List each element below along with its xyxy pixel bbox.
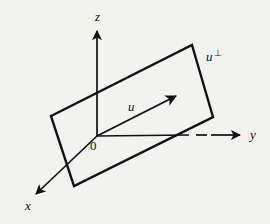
vector-u-label: u (128, 100, 135, 113)
y-axis-line-inner (97, 135, 189, 136)
x-axis-label: x (25, 199, 31, 212)
plane-u-perp (51, 45, 213, 186)
y-axis-label: y (250, 128, 256, 141)
z-axis-label: z (95, 10, 100, 23)
plane-u-perp-base: u (206, 49, 213, 64)
x-axis-line (36, 136, 97, 194)
figure-canvas: z y x u u⊥ 0 (0, 0, 270, 224)
diagram-svg (0, 0, 270, 224)
plane-u-perp-label: u⊥ (206, 49, 222, 63)
vector-u (97, 96, 176, 136)
perpendicular-icon: ⊥ (214, 48, 222, 58)
origin-label: 0 (90, 139, 97, 152)
